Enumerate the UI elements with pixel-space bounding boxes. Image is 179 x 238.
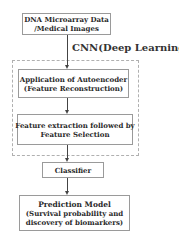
arrow-classifier-to-prediction [67,178,68,191]
node-autoencoder: Application of Autoencoder (Feature Reco… [18,69,129,98]
node-feature-line1: Feature extraction followed by [15,121,134,130]
node-feature-line2: Feature Selection [40,130,109,139]
node-input-line2: /Medical Images [34,24,99,33]
node-prediction-line3: discovery of biomarkers) [26,218,123,227]
arrow-input-to-autoencoder [67,35,68,65]
node-classifier: Classifier [42,162,104,178]
arrow-autoencoder-to-feature [67,98,68,110]
cnn-group-label: CNN(Deep Learning) [72,42,179,53]
node-feature-extraction: Feature extraction followed by Feature S… [17,114,133,145]
node-input-data: DNA Microarray Data /Medical Images [22,13,111,35]
node-input-line1: DNA Microarray Data [24,15,109,24]
node-classifier-line1: Classifier [55,166,92,175]
node-prediction-line2: (Survival probability and [26,209,123,218]
node-prediction-line1: Prediction Model [38,200,111,209]
node-prediction-model: Prediction Model (Survival probability a… [19,195,130,231]
arrow-feature-to-classifier [67,145,68,158]
node-autoencoder-line1: Application of Autoencoder [20,75,127,84]
node-autoencoder-line2: (Feature Reconstruction) [24,84,123,93]
